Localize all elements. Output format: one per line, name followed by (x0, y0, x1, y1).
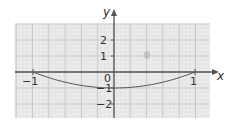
y-axis-arrow-icon (111, 9, 117, 16)
chart-area: y x 0 −1 1 2 1 −1 −2 (0, 0, 238, 126)
chart-svg (0, 0, 238, 126)
x-tick-label-1: 1 (190, 76, 197, 87)
y-tick-label-1: 1 (100, 51, 107, 62)
y-tick-label-2: 2 (100, 35, 107, 46)
y-axis-label: y (103, 6, 110, 18)
y-tick-label-neg1: −1 (96, 83, 112, 94)
x-tick-label-neg1: −1 (22, 76, 38, 87)
y-tick-label-neg2: −2 (96, 99, 112, 110)
smudge-mark (144, 51, 150, 59)
x-axis-label: x (217, 70, 224, 82)
